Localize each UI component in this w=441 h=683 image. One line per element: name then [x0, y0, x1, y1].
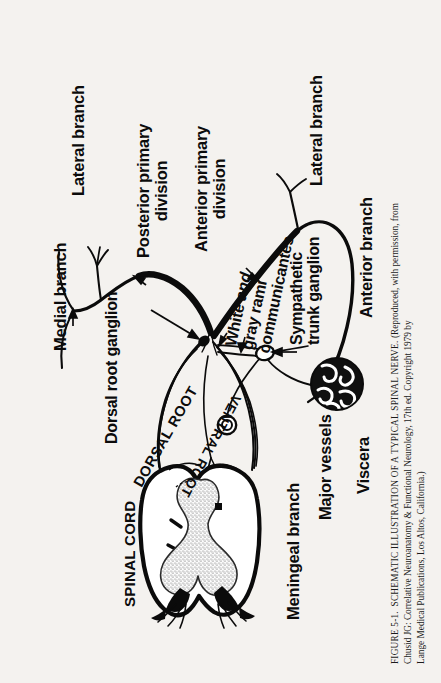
label-spinal-cord: SPINAL CORD — [122, 501, 138, 607]
figure-caption-line-2: Chusid JG: Correlative Neuroanatomy & Fu… — [402, 203, 415, 664]
label-lateral-branch-anterior: Lateral branch — [308, 75, 325, 186]
label-sympathetic-trunk-ganglion: Sympathetic trunk ganglion — [288, 237, 322, 345]
label-posterior-primary-division-line2: division — [153, 124, 171, 258]
label-sympathetic-trunk-ganglion-line2: trunk ganglion — [305, 237, 322, 345]
label-meningeal-branch: Meningeal branch — [285, 483, 302, 620]
figure-caption-lead: SCHEMATIC ILLUSTRATION OF A TYPICAL SPIN… — [390, 340, 400, 606]
label-anterior-primary-division: Anterior primary division — [193, 126, 228, 252]
label-anterior-branch: Anterior branch — [358, 197, 375, 318]
figure-page: Lateral branch Medial branch Posterior p… — [0, 0, 441, 683]
label-dorsal-root-ganglion: Dorsal root ganglion — [104, 292, 121, 444]
label-medial-branch: Medial branch — [52, 243, 69, 351]
label-viscera: Viscera — [355, 437, 372, 494]
label-major-vessels: Major vessels — [317, 414, 334, 520]
figure-caption-line-1: FIGURE 5-1. SCHEMATIC ILLUSTRATION OF A … — [389, 203, 402, 664]
label-posterior-primary-division: Posterior primary division — [135, 124, 170, 258]
figure-number: FIGURE 5-1. — [390, 611, 400, 664]
label-anterior-primary-division-line1: Anterior primary — [193, 126, 211, 252]
label-sympathetic-trunk-ganglion-line1: Sympathetic — [288, 237, 305, 345]
label-lateral-branch-posterior: Lateral branch — [70, 85, 87, 196]
figure-caption: FIGURE 5-1. SCHEMATIC ILLUSTRATION OF A … — [389, 203, 429, 664]
label-anterior-primary-division-line2: division — [211, 126, 229, 252]
figure-caption-line-3: Lange Medical Publications, Los Altos, C… — [415, 203, 428, 664]
label-posterior-primary-division-line1: Posterior primary — [135, 124, 153, 258]
